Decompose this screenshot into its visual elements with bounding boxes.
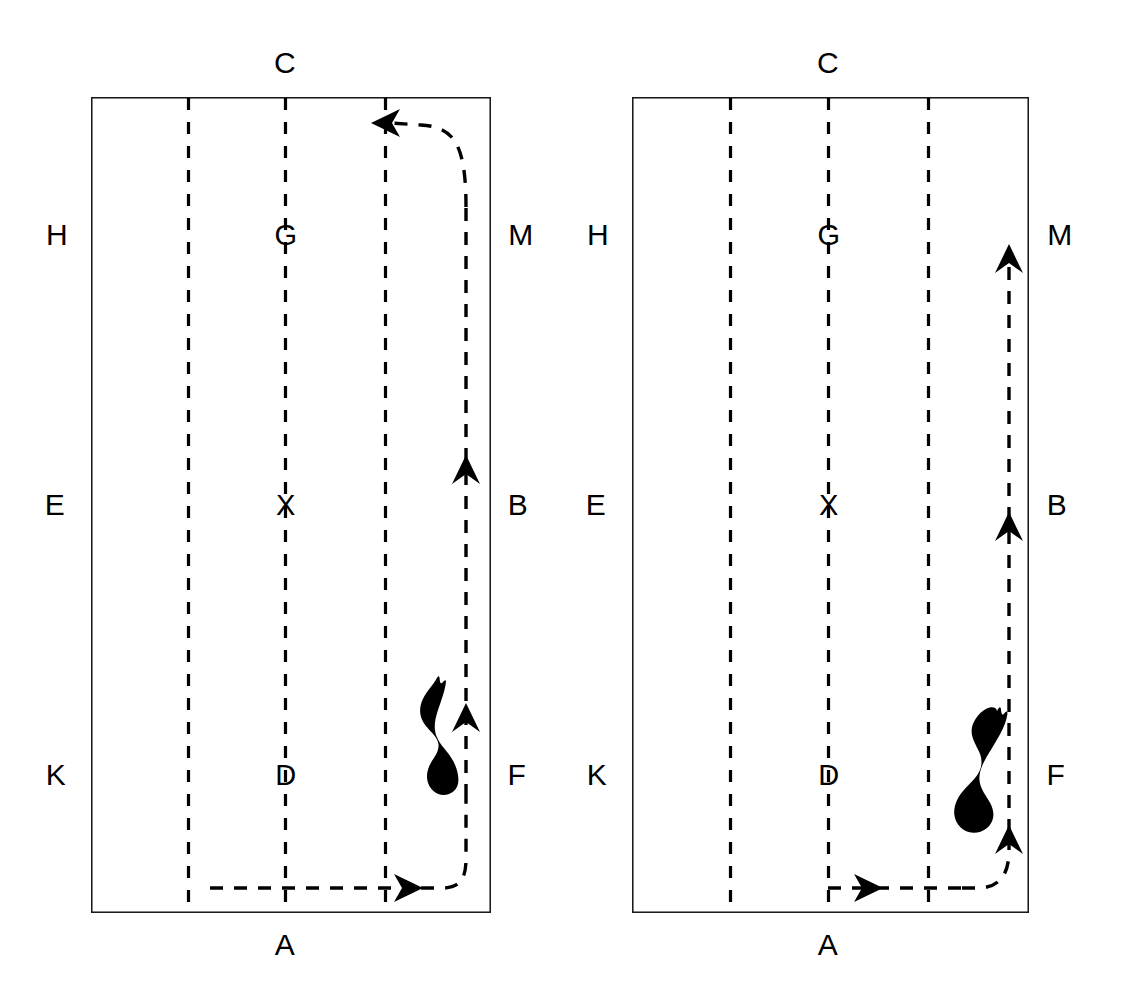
right-panel-label-g: G [817,221,840,250]
left-panel-label-f: F [508,760,527,790]
left-panel-label-x: X [276,491,296,520]
right-panel-label-e: E [586,490,607,520]
right-panel-label-d: D [818,761,839,790]
right-panel-label-b: B [1047,490,1068,520]
left-panel-label-d: D [275,761,296,790]
figure-root: CHGMEXBKDFACHGMEXBKDFA [0,0,1122,993]
right-panel-label-a: A [818,930,839,960]
left-panel-label-m: M [508,220,534,250]
right-panel-label-x: X [819,491,839,520]
right-panel-label-f: F [1047,760,1066,790]
right-panel-label-c: C [817,48,839,78]
left-panel-label-g: G [274,221,297,250]
right-panel-label-m: M [1047,220,1073,250]
right-panel-label-k: K [587,760,608,790]
right-panel-label-h: H [587,220,609,250]
left-panel-label-e: E [45,490,66,520]
left-panel-label-c: C [274,48,296,78]
left-panel-label-b: B [508,490,529,520]
left-panel-label-h: H [46,220,68,250]
left-panel-label-a: A [275,930,296,960]
left-panel-label-k: K [46,760,67,790]
